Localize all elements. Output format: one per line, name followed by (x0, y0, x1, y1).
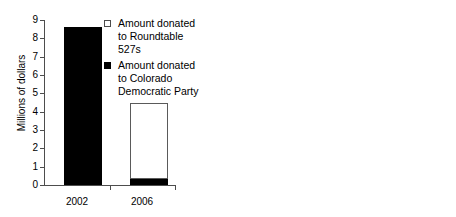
x-axis-label-left-2002: 2002 (55, 195, 99, 208)
x-tick-left-mid (110, 186, 111, 190)
chart-panel-amount-donated: Millions of dollars 9 8 7 6 5 4 (0, 0, 228, 217)
legend-swatch-solid-icon (104, 62, 111, 69)
x-tick-left-end (175, 186, 176, 190)
y-axis-label-left: Millions of dollars (14, 0, 30, 186)
bar-segment-roundtable-527s-2006 (130, 103, 168, 179)
bar-segment-colorado-democratic-party-2006 (130, 179, 168, 185)
bar-segment-colorado-democratic-party-2002 (64, 27, 102, 185)
two-panel-bar-chart-figure: Millions of dollars 9 8 7 6 5 4 (0, 0, 456, 217)
legend-entry-colorado-democratic-party-amount: Amount donated to Colorado Democratic Pa… (104, 59, 222, 99)
y-axis-line-left (44, 20, 45, 186)
legend-left: Amount donated to Roundtable 527s Amount… (104, 17, 222, 100)
legend-entry-roundtable-527s-amount: Amount donated to Roundtable 527s (104, 17, 222, 57)
x-axis-label-left-2006: 2006 (120, 195, 164, 208)
legend-swatch-open-icon (104, 20, 111, 27)
bar-left-2002 (64, 27, 102, 185)
chart-panel-number-of-donations: 300 250 200 150 100 50 0 2002 2006 (228, 0, 456, 217)
bar-left-2006 (130, 103, 168, 185)
